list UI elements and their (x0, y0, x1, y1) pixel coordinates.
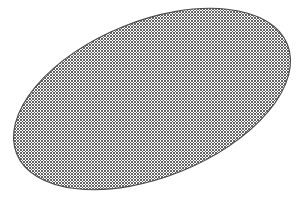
figure-svg (0, 0, 304, 199)
figure-canvas (0, 0, 304, 199)
